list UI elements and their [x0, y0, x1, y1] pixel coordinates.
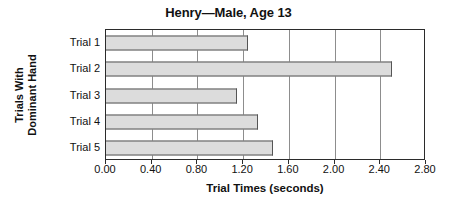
bar — [106, 114, 258, 129]
x-axis-tick-label: 1.20 — [231, 163, 252, 175]
gridline — [380, 30, 381, 159]
bar — [106, 140, 273, 155]
y-axis-tick-label: Trial 4 — [70, 115, 100, 127]
y-axis-title: Trials With Dominant Hand — [6, 29, 46, 160]
x-axis-tick-label: 0.80 — [186, 163, 207, 175]
plot-area — [105, 29, 425, 160]
x-axis-tick-label: 2.40 — [369, 163, 390, 175]
x-axis-tick-mark — [151, 160, 152, 164]
x-axis-tick-mark — [242, 160, 243, 164]
bar — [106, 88, 237, 103]
x-axis-tick-mark — [288, 160, 289, 164]
x-axis-tick-label: 1.60 — [277, 163, 298, 175]
bar — [106, 62, 392, 77]
bar-chart: Henry—Male, Age 13 Trials With Dominant … — [0, 0, 457, 210]
x-axis-tick-labels: 0.000.400.801.201.602.002.402.80 — [0, 163, 457, 179]
gridline — [289, 30, 290, 159]
y-axis-tick-labels: Trial 1Trial 2Trial 3Trial 4Trial 5 — [44, 29, 103, 160]
y-axis-tick-label: Trial 2 — [70, 62, 100, 74]
x-axis-tick-label: 0.00 — [94, 163, 115, 175]
x-axis-tick-label: 2.80 — [414, 163, 435, 175]
y-axis-title-line-1: Trials With — [13, 54, 26, 135]
bar — [106, 36, 248, 51]
x-axis-tick-mark — [425, 160, 426, 164]
y-axis-tick-label: Trial 5 — [70, 141, 100, 153]
gridline — [335, 30, 336, 159]
y-axis-tick-label: Trial 1 — [70, 36, 100, 48]
x-axis-title: Trial Times (seconds) — [105, 182, 425, 194]
x-axis-tick-label: 0.40 — [140, 163, 161, 175]
y-axis-title-line-2: Dominant Hand — [26, 54, 39, 135]
y-axis-tick-label: Trial 3 — [70, 89, 100, 101]
x-axis-tick-label: 2.00 — [323, 163, 344, 175]
x-axis-tick-mark — [334, 160, 335, 164]
x-axis-tick-mark — [379, 160, 380, 164]
x-axis-tick-mark — [196, 160, 197, 164]
chart-title: Henry—Male, Age 13 — [0, 5, 457, 20]
x-axis-tick-mark — [105, 160, 106, 164]
